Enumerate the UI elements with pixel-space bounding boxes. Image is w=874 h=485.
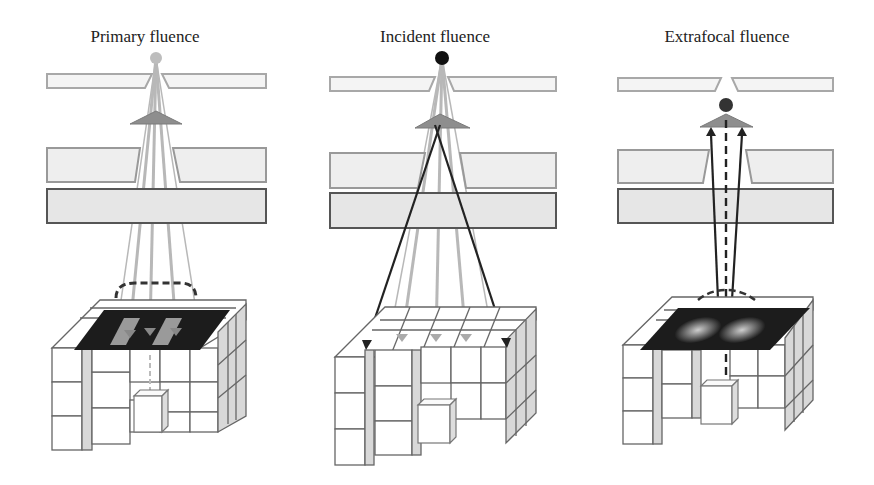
secondary-jaws (47, 148, 266, 182)
source-icon (435, 51, 449, 65)
source-icon (150, 52, 162, 64)
extrafocal-fluence-diagram (580, 0, 874, 485)
panel-extrafocal-fluence: Extrafocal fluence (580, 0, 874, 485)
collimator-block (47, 189, 266, 223)
panel-incident-fluence: Incident fluence (290, 0, 580, 485)
panel-primary-fluence: Primary fluence (0, 0, 290, 485)
calculation-voxel (134, 390, 168, 432)
incident-fluence-diagram (290, 0, 580, 485)
collimator-block (330, 193, 556, 228)
primary-fluence-diagram (0, 0, 290, 485)
fluence-profile-dashed (116, 283, 196, 298)
secondary-jaws (330, 153, 556, 188)
flattening-filter-icon (130, 111, 182, 124)
upper-jaws (618, 78, 833, 91)
calculation-voxel (701, 380, 738, 424)
source-icon (719, 98, 733, 112)
flattening-filter-icon (415, 114, 470, 128)
calculation-voxel (418, 399, 456, 443)
